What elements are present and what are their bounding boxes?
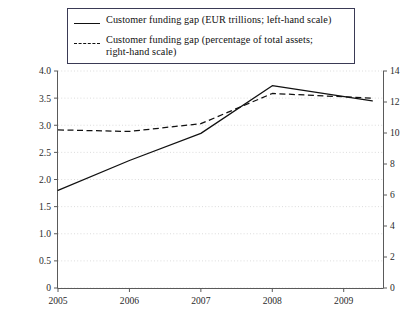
line-chart: 4.03.53.02.52.01.51.00.50 14121086420 20… bbox=[0, 0, 419, 323]
figure: Customer funding gap (EUR trillions; lef… bbox=[0, 0, 419, 323]
right-tick-label: 6 bbox=[390, 189, 395, 200]
x-tick-label: 2005 bbox=[48, 295, 67, 306]
right-tick-labels: 14121086420 bbox=[390, 65, 400, 293]
left-tick-labels: 4.03.53.02.52.01.51.00.50 bbox=[39, 65, 51, 293]
plot-area: 4.03.53.02.52.01.51.00.50 14121086420 20… bbox=[0, 0, 419, 323]
left-tick-label: 2.0 bbox=[39, 174, 51, 185]
right-tick-label: 10 bbox=[390, 127, 400, 138]
right-tick-label: 2 bbox=[390, 251, 395, 262]
series-line-percentage bbox=[58, 93, 372, 131]
left-tick-label: 0 bbox=[46, 282, 51, 293]
left-tick-label: 1.0 bbox=[39, 228, 51, 239]
left-tick-label: 4.0 bbox=[39, 65, 51, 76]
left-tick-label: 3.5 bbox=[39, 93, 51, 104]
right-tick-label: 0 bbox=[390, 282, 395, 293]
right-tick-label: 12 bbox=[390, 96, 400, 107]
right-tick-label: 4 bbox=[390, 220, 395, 231]
x-tick-label: 2009 bbox=[334, 295, 353, 306]
x-tick-label: 2006 bbox=[120, 295, 139, 306]
x-tick-label: 2007 bbox=[191, 295, 210, 306]
series-line-eur-trillions bbox=[58, 86, 372, 191]
left-tick-label: 2.5 bbox=[39, 147, 51, 158]
right-tick-label: 8 bbox=[390, 158, 395, 169]
left-tick-label: 1.5 bbox=[39, 201, 51, 212]
left-tick-label: 0.5 bbox=[39, 255, 51, 266]
x-tick-labels: 20052006200720082009 bbox=[48, 295, 353, 306]
left-tick-label: 3.0 bbox=[39, 120, 51, 131]
gridlines bbox=[58, 71, 383, 288]
right-tick-label: 14 bbox=[390, 65, 400, 76]
x-tick-label: 2008 bbox=[263, 295, 282, 306]
